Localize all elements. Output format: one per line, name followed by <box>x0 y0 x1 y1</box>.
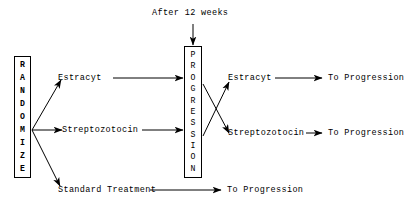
crossover-label-streptozotocin: Streptozotocin <box>228 128 304 138</box>
randomize-box: R A N D O M I Z E <box>14 56 31 178</box>
crossover-label-estracyt: Estracyt <box>228 73 272 83</box>
progression-letter: P <box>191 51 196 59</box>
randomize-letter: D <box>20 100 25 108</box>
randomize-letter: E <box>20 165 25 173</box>
outcome-label-standard: To Progression <box>227 185 303 195</box>
randomize-letter: R <box>20 61 25 69</box>
progression-letter: R <box>191 62 196 70</box>
progression-letter: S <box>191 131 196 139</box>
outcome-label-streptozotocin: To Progression <box>328 128 404 138</box>
arm-label-standard-treatment: Standard Treatment <box>58 185 156 195</box>
progression-letter: N <box>191 165 196 173</box>
progression-letter: O <box>191 153 196 161</box>
progression-letter: I <box>191 142 196 150</box>
progression-letter: E <box>191 108 196 116</box>
randomize-letter: N <box>20 87 25 95</box>
progression-letter: R <box>191 97 196 105</box>
connector-layer <box>0 0 418 210</box>
progression-letter: S <box>191 119 196 127</box>
edge-randomize-to-standard <box>32 130 60 186</box>
randomize-letter: Z <box>20 152 25 160</box>
randomize-letter: A <box>20 74 25 82</box>
randomize-letter: M <box>20 126 25 134</box>
randomize-letter: I <box>20 139 25 147</box>
outcome-label-estracyt: To Progression <box>328 73 404 83</box>
arm-label-streptozotocin: Streptozotocin <box>62 125 138 135</box>
arm-label-estracyt: Estracyt <box>58 73 102 83</box>
progression-letter: O <box>191 74 196 82</box>
edge-randomize-to-estracyt <box>32 80 61 130</box>
flowchart-canvas: R A N D O M I Z E P R O G R E S S I O N … <box>0 0 418 210</box>
progression-box: P R O G R E S S I O N <box>184 46 202 178</box>
edge-progression-to-cross-streptozotocin <box>203 84 229 133</box>
timing-note-label: After 12 weeks <box>152 8 228 18</box>
randomize-letter: O <box>20 113 25 121</box>
progression-letter: G <box>191 85 196 93</box>
